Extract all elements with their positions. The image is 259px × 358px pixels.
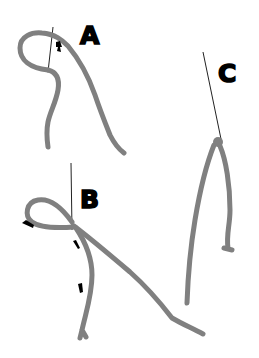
yarn-b-loop bbox=[27, 200, 74, 228]
label-b: B bbox=[80, 185, 99, 214]
yarn-a-tail bbox=[47, 70, 59, 147]
label-a: A bbox=[80, 21, 100, 50]
yarn-a bbox=[20, 33, 124, 153]
panel-c: C bbox=[187, 52, 236, 303]
label-c: C bbox=[218, 59, 236, 88]
arrow-icon bbox=[78, 283, 83, 293]
yarn-b-tail bbox=[76, 228, 92, 338]
knot-diagram: A B C bbox=[0, 0, 259, 358]
arrow-icon bbox=[73, 240, 80, 249]
panel-b: B bbox=[22, 163, 203, 338]
yarn-c-right bbox=[220, 146, 232, 250]
panel-a: A bbox=[20, 21, 124, 153]
yarn-c-left bbox=[187, 145, 214, 303]
